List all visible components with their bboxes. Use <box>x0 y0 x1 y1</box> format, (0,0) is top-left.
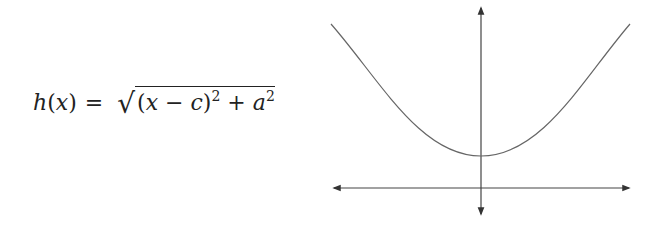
function-graph <box>0 0 662 228</box>
